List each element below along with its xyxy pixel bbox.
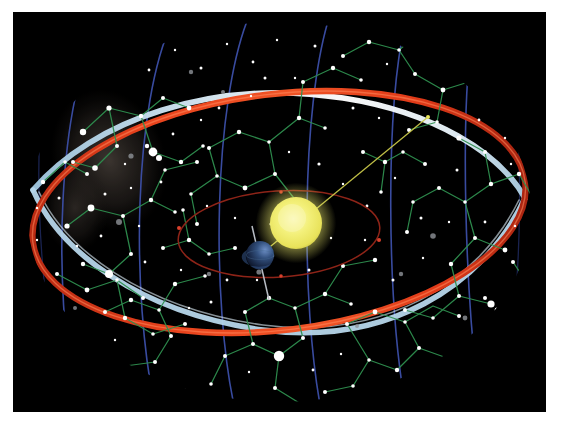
orbit-node	[377, 238, 381, 242]
figure-frame	[0, 0, 566, 430]
orbit-node	[279, 274, 283, 278]
orbit-node	[177, 226, 181, 230]
celestial-sphere-plate	[13, 12, 546, 412]
celestial-sphere-illustration	[13, 12, 546, 412]
